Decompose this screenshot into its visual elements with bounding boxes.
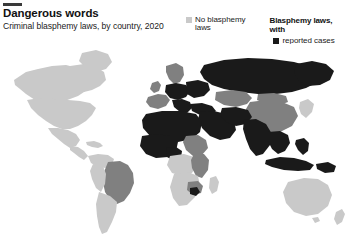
legend-label-no-laws: No blasphemy laws: [195, 16, 260, 33]
legend-swatch-no-laws: [186, 17, 192, 23]
accent-rule: [3, 3, 22, 6]
world-choropleth-map: [0, 44, 347, 239]
legend-group-heading: Blasphemy laws, with: [269, 16, 347, 34]
page-title: Dangerous words: [3, 7, 99, 19]
page-subtitle: Criminal blasphemy laws, by country, 202…: [3, 21, 164, 31]
legend-entry-no-laws: No blasphemy laws: [186, 16, 260, 33]
